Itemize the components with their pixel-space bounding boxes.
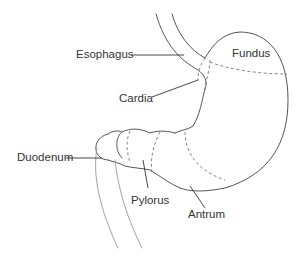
duodenum-outer-wall xyxy=(96,148,118,248)
label-antrum: Antrum xyxy=(188,209,225,221)
label-duodenum: Duodenum xyxy=(17,152,73,164)
esophagus-inner-wall xyxy=(172,14,205,58)
stomach-illustration xyxy=(0,0,304,261)
esophagus-outer-wall xyxy=(156,14,206,89)
label-pylorus: Pylorus xyxy=(131,195,169,207)
cardia-leader xyxy=(152,80,198,97)
label-cardia: Cardia xyxy=(119,93,153,105)
antrum-boundary xyxy=(185,132,225,180)
pylorus-top xyxy=(108,129,175,134)
label-esophagus: Esophagus xyxy=(76,49,134,61)
antrum-leader xyxy=(190,186,205,208)
duodenum-fold-1 xyxy=(117,132,122,158)
pyloric-canal-boundary xyxy=(127,131,130,162)
duodenum-bulge xyxy=(96,134,108,160)
pylorus-boundary xyxy=(151,132,160,172)
lesser-curvature xyxy=(175,89,205,133)
label-fundus: Fundus xyxy=(232,48,270,60)
pylorus-leader xyxy=(143,160,148,188)
leader-lines xyxy=(66,55,205,208)
cardia-boundary-right xyxy=(205,60,210,89)
fundus-boundary xyxy=(210,62,287,74)
